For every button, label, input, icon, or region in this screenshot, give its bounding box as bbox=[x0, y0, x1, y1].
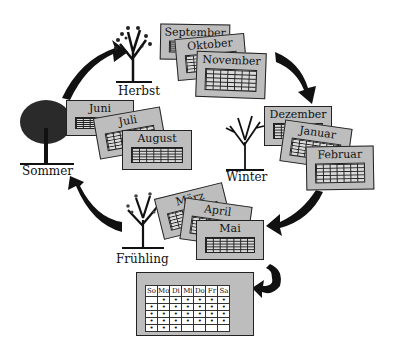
weekday-header: Fr bbox=[206, 286, 218, 297]
weekday-header: Di bbox=[170, 286, 182, 297]
month-card-november: November bbox=[195, 51, 267, 99]
day-row: ••• bbox=[146, 325, 230, 332]
day-cell bbox=[218, 325, 230, 332]
day-cell bbox=[194, 325, 206, 332]
day-cell: • bbox=[218, 318, 230, 325]
arrow-icon bbox=[275, 52, 316, 104]
month-card-februar: Februar bbox=[306, 145, 375, 190]
weekday-header: Mo bbox=[158, 286, 170, 297]
day-cell: • bbox=[206, 318, 218, 325]
arrow-icon bbox=[252, 264, 281, 298]
day-cell bbox=[206, 325, 218, 332]
month-card-august: August bbox=[122, 130, 192, 170]
weekday-header-row: So Mo Di Mi Do Fr Sa bbox=[146, 286, 230, 297]
day-cell: • bbox=[158, 325, 170, 332]
season-label-herbst: Herbst bbox=[118, 84, 160, 98]
day-rows: •••••••••••••••••••••••••••••• bbox=[146, 297, 230, 332]
weekday-header: So bbox=[146, 286, 158, 297]
season-label-sommer: Sommer bbox=[22, 164, 73, 178]
day-cell: • bbox=[170, 325, 182, 332]
weekday-table: So Mo Di Mi Do Fr Sa •••••••••••••••••••… bbox=[145, 285, 230, 332]
week-calendar: So Mo Di Mi Do Fr Sa •••••••••••••••••••… bbox=[136, 272, 254, 336]
season-label-fruehling: Frühling bbox=[116, 252, 169, 266]
day-cell: • bbox=[182, 318, 194, 325]
day-cell bbox=[182, 325, 194, 332]
season-cycle-diagram: Herbst Winter Frühling Sommer September … bbox=[0, 0, 396, 358]
day-cell: • bbox=[194, 318, 206, 325]
month-card-mai: Mai bbox=[196, 220, 264, 260]
weekday-header: Mi bbox=[182, 286, 194, 297]
arrow-icon bbox=[266, 190, 323, 236]
winter-tree-icon bbox=[222, 112, 268, 172]
day-cell: • bbox=[146, 325, 158, 332]
weekday-header: Do bbox=[194, 286, 206, 297]
arrow-icon bbox=[68, 176, 122, 232]
day-row: ••••••• bbox=[146, 318, 230, 325]
weekday-header: Sa bbox=[218, 286, 230, 297]
autumn-tree-icon bbox=[108, 22, 158, 84]
season-label-winter: Winter bbox=[226, 170, 267, 184]
